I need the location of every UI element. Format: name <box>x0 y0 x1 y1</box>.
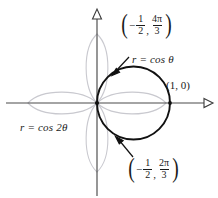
fraction-theta-upper: 4π 3 <box>150 14 164 36</box>
annotation-point-upper: ( − 1 2 , 4π 3 ) <box>120 14 173 36</box>
plot-canvas <box>0 0 218 198</box>
paren-close-upper: ) <box>165 14 171 36</box>
fraction-denominator: 2 <box>143 169 152 181</box>
fraction-numerator: 1 <box>136 14 145 25</box>
point-marker-one-zero <box>168 101 172 105</box>
minus-sign-lower: − <box>136 164 143 175</box>
paren-close-lower: ) <box>172 158 178 180</box>
fraction-denominator: 3 <box>160 169 169 181</box>
fraction-r-upper: 1 2 <box>136 14 145 36</box>
fraction-r-lower: 1 2 <box>143 158 152 180</box>
y-axis-arrowhead <box>93 9 102 19</box>
fraction-numerator: 2π <box>157 158 171 169</box>
fraction-denominator: 2 <box>136 25 145 37</box>
fraction-theta-lower: 2π 3 <box>157 158 171 180</box>
annotation-curve-rose: r = cos 2θ <box>20 122 68 133</box>
polar-graph-figure: ( − 1 2 , 4π 3 ) r = cos θ (1, 0) r = co… <box>0 0 218 198</box>
origin-point <box>95 101 99 105</box>
fraction-denominator: 3 <box>153 25 162 37</box>
paren-open-lower: ( <box>128 158 134 180</box>
fraction-numerator: 1 <box>143 158 152 169</box>
annotation-point-one-zero: (1, 0) <box>166 80 190 91</box>
paren-open-upper: ( <box>121 14 127 36</box>
x-axis-arrowhead <box>204 99 213 108</box>
fraction-numerator: 4π <box>150 14 164 25</box>
annotation-curve-circle: r = cos θ <box>132 54 174 65</box>
annotation-point-lower: ( − 1 2 , 2π 3 ) <box>127 158 180 180</box>
minus-sign-upper: − <box>129 20 136 31</box>
